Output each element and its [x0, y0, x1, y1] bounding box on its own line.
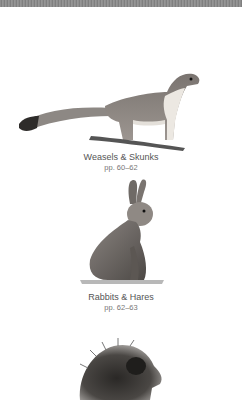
entry-caption: Weasels & Skunks pp. 60–62: [0, 152, 242, 172]
entry-weasels-skunks[interactable]: Weasels & Skunks pp. 60–62: [0, 0, 242, 170]
entry-rabbits-hares[interactable]: Rabbits & Hares pp. 62–63: [0, 170, 242, 315]
weasel-illustration: [15, 62, 205, 152]
entry-porcupine[interactable]: [0, 330, 242, 400]
entry-caption: Rabbits & Hares pp. 62–63: [0, 292, 242, 312]
entry-title: Rabbits & Hares: [0, 292, 242, 303]
porcupine-illustration: [76, 336, 166, 400]
entry-pages: pp. 62–63: [0, 303, 242, 312]
entry-title: Weasels & Skunks: [0, 152, 242, 163]
rabbit-illustration: [74, 176, 170, 286]
